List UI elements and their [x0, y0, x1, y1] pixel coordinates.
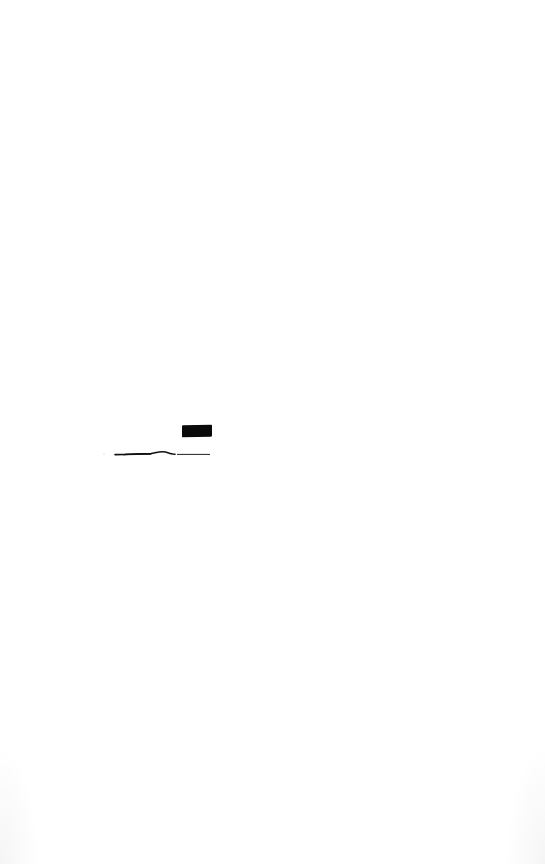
scan-shadow-right [505, 744, 545, 864]
scan-shadow-left [0, 744, 40, 864]
document-page [0, 0, 545, 864]
signature-line [103, 446, 215, 460]
redaction-block [182, 425, 212, 438]
